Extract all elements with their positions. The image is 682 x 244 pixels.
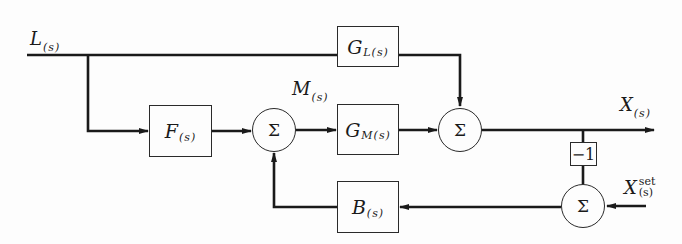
wire-branch-to-f bbox=[88, 55, 148, 131]
label-output-arg: (s) bbox=[634, 107, 651, 120]
wire-gl-to-sum2 bbox=[399, 55, 460, 106]
label-setpoint-scripts: set(s) bbox=[639, 176, 656, 198]
summing-junction-2: Σ bbox=[438, 108, 482, 152]
label-manipulated-symbol: M bbox=[292, 78, 310, 99]
block-negation: −1 bbox=[570, 142, 597, 166]
block-feedback-sub: (s) bbox=[367, 207, 384, 220]
block-load-sub: L(s) bbox=[363, 46, 389, 59]
label-setpoint-arg: (s) bbox=[639, 187, 656, 198]
block-feedback: B(s) bbox=[337, 181, 399, 233]
block-process: GM(s) bbox=[337, 104, 399, 155]
block-negation-label: −1 bbox=[572, 145, 596, 164]
label-output-symbol: X bbox=[620, 94, 633, 115]
label-manipulated-arg: (s) bbox=[311, 91, 328, 104]
label-manipulated: M(s) bbox=[292, 80, 329, 98]
sigma-icon: Σ bbox=[577, 196, 589, 216]
label-disturbance-arg: (s) bbox=[43, 41, 60, 54]
block-feedforward: F(s) bbox=[149, 105, 212, 157]
block-diagram: L(s) M(s) X(s) Xset(s) GL(s) F(s) GM(s) … bbox=[0, 0, 682, 244]
sigma-icon: Σ bbox=[454, 120, 466, 140]
block-load-transfer: GL(s) bbox=[337, 26, 399, 67]
block-process-symbol: G bbox=[345, 119, 360, 141]
label-disturbance: L(s) bbox=[30, 30, 60, 48]
label-output: X(s) bbox=[620, 96, 651, 114]
label-setpoint-symbol: X bbox=[624, 177, 637, 198]
summing-junction-1: Σ bbox=[252, 108, 296, 152]
block-feedback-symbol: B bbox=[352, 196, 366, 218]
wire-b-to-sum1 bbox=[274, 153, 337, 207]
block-process-sub: M(s) bbox=[361, 129, 391, 142]
block-feedforward-sub: (s) bbox=[179, 131, 196, 144]
label-disturbance-symbol: L bbox=[30, 28, 42, 49]
block-feedforward-symbol: F bbox=[165, 120, 178, 142]
sigma-icon: Σ bbox=[268, 120, 280, 140]
block-load-symbol: G bbox=[347, 36, 362, 58]
summing-junction-3: Σ bbox=[561, 184, 605, 228]
label-setpoint: Xset(s) bbox=[624, 178, 655, 200]
